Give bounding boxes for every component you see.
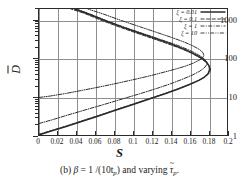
caption-close: ) and varying xyxy=(117,165,168,175)
legend-label: ξ = 10 xyxy=(181,30,197,37)
legend-line-sample xyxy=(200,30,226,36)
caption-period: . xyxy=(177,165,179,175)
x-tick-label: 0.18 xyxy=(203,138,216,146)
chart-legend: ξ = 0.01ξ = 0.1ξ = 1ξ = 10 xyxy=(152,9,226,37)
y-axis-title: D xyxy=(9,50,24,90)
x-axis-title: S xyxy=(0,146,239,161)
x-tick-label: 0.06 xyxy=(89,138,102,146)
y-tick-mark xyxy=(33,136,38,137)
legend-row: ξ = 10 xyxy=(152,30,226,36)
x-tick-label: 0.2 xyxy=(223,138,232,146)
caption-tau: ~τ xyxy=(170,164,173,176)
x-tick-label: 0.14 xyxy=(165,138,178,146)
x-tick-mark xyxy=(228,131,229,136)
x-tick-label: 0.02 xyxy=(51,138,64,146)
caption-equals: = 1 /(10t xyxy=(81,165,114,175)
x-tick-label: 0.08 xyxy=(108,138,121,146)
figure-caption: (b) β = 1 /(10tp) and varying ~τp. xyxy=(0,164,239,179)
x-tick-label: 0 xyxy=(36,138,40,146)
x-tick-label: 0.16 xyxy=(184,138,197,146)
y-axis-title-text: D xyxy=(9,65,23,74)
legend-line-sample xyxy=(200,9,226,15)
x-tick-label: 0.1 xyxy=(128,138,137,146)
x-tick-label: 0.12 xyxy=(146,138,159,146)
figure-chart: 1101001000 D 00.020.040.060.080.10.120.1… xyxy=(0,0,239,185)
legend-line-sample xyxy=(200,16,226,22)
legend-line-sample xyxy=(200,23,226,29)
caption-beta: β xyxy=(73,165,78,175)
caption-prefix: (b) xyxy=(60,165,71,175)
x-tick-label: 0.04 xyxy=(70,138,83,146)
